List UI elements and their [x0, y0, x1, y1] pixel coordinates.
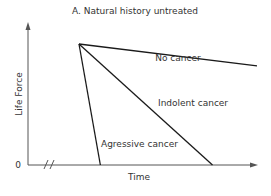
series-line-aggressive-cancer [79, 44, 100, 165]
series-label-aggressive-cancer: Agressive cancer [101, 139, 178, 149]
chart-title: A. Natural history untreated [72, 6, 198, 16]
y-axis-arrow-icon [26, 22, 31, 30]
x-axis-label: Time [127, 172, 150, 182]
series-layer: No cancerIndolent cancerAgressive cancer [79, 44, 257, 165]
x-axis-arrow-icon [250, 163, 258, 168]
series-label-no-cancer: No cancer [155, 53, 201, 63]
y-origin-label: 0 [15, 160, 21, 170]
series-label-indolent-cancer: Indolent cancer [158, 98, 228, 108]
y-axis-label: Life Force [14, 72, 24, 116]
chart: A. Natural history untreated Life Force … [0, 0, 271, 196]
